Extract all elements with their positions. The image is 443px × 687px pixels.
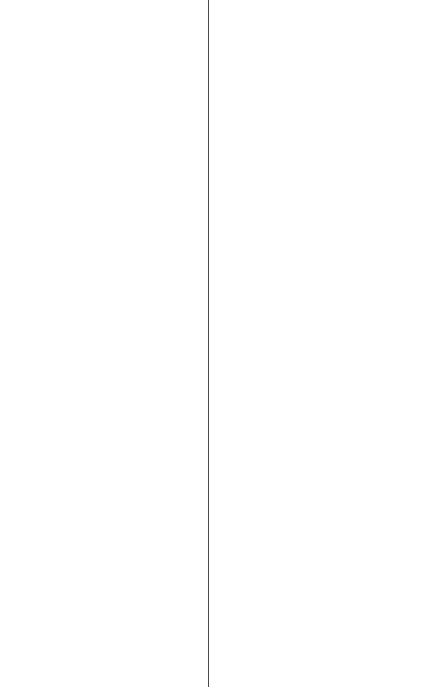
split-view <box>0 0 443 687</box>
right-pane <box>209 0 443 687</box>
left-pane <box>0 0 208 687</box>
